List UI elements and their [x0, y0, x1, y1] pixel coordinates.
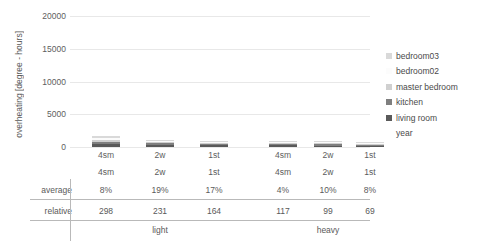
bar-stack[interactable] [200, 141, 228, 147]
bar-segment-living-room[interactable] [146, 145, 174, 147]
table-column-header: 2w [155, 163, 166, 181]
x-axis-labels: 4sm2w1st4sm2w1st [70, 150, 370, 164]
table-row-label: relative [12, 202, 72, 220]
legend-swatch-icon [386, 130, 392, 136]
x-tick-label: 1st [208, 150, 219, 160]
bar-stack[interactable] [146, 140, 174, 147]
table-cell: 17% [205, 181, 222, 199]
table-vertical-divider [70, 179, 71, 241]
bar-segment-living-room[interactable] [200, 145, 228, 147]
table-cell: 99 [323, 202, 332, 220]
y-axis-ticks: 05000100001500020000 [22, 16, 66, 147]
bar-stack[interactable] [92, 136, 120, 147]
legend-item-label: bedroom03 [396, 51, 439, 61]
table-group-label: light [152, 225, 168, 235]
table-group-label: heavy [317, 225, 340, 235]
table-cell: 164 [207, 202, 221, 220]
gridline [70, 147, 370, 148]
legend-item-kitchen[interactable]: kitchen [386, 95, 488, 111]
bar-stack[interactable] [314, 141, 342, 147]
bar-series-container [70, 16, 370, 147]
legend-item-bedroom03[interactable]: bedroom03 [386, 48, 488, 64]
bar-segment-living-room[interactable] [269, 145, 297, 147]
legend-item-bedroom02[interactable]: bedroom02 [386, 64, 488, 80]
table-header-row: 4sm2w1st4sm2w1st [12, 163, 370, 181]
table-cell: 10% [319, 181, 336, 199]
chart-figure: overheating [degree - hours] 05000100001… [0, 0, 490, 244]
legend-swatch-icon [386, 99, 392, 105]
legend-swatch-icon [386, 68, 392, 74]
x-tick-label: 1st [364, 150, 375, 160]
legend-item-master-bedroom[interactable]: master bedroom [386, 79, 488, 95]
bar-segment-living-room[interactable] [356, 146, 384, 147]
x-tick-label: 4sm [98, 150, 114, 160]
table-row-label: average [12, 181, 72, 199]
x-tick-label: 2w [323, 150, 334, 160]
table-divider [30, 199, 370, 200]
bar-segment-living-room[interactable] [92, 144, 120, 147]
legend-swatch-icon [386, 84, 392, 90]
table-column-header: 2w [323, 163, 334, 181]
table-cell: 4% [277, 181, 289, 199]
y-tick-label: 15000 [26, 44, 66, 54]
table-column-header: 4sm [98, 163, 114, 181]
table-row: relative2982311641179969 [12, 202, 370, 220]
data-table: 4sm2w1st4sm2w1staverage8%19%17%4%10%8%re… [12, 163, 370, 239]
table-cell: 117 [276, 202, 290, 220]
bar-stack[interactable] [356, 142, 384, 147]
table-cell: 231 [153, 202, 167, 220]
chart-legend: bedroom03bedroom02master bedroomkitchenl… [386, 48, 488, 141]
table-cell: 8% [364, 181, 376, 199]
bar-stack[interactable] [269, 141, 297, 147]
legend-swatch-icon [386, 115, 392, 121]
legend-item-label: master bedroom [396, 82, 458, 92]
legend-item-year[interactable]: year [386, 126, 488, 142]
y-tick-label: 20000 [26, 11, 66, 21]
legend-item-label: year [396, 128, 413, 138]
table-cell: 19% [151, 181, 168, 199]
legend-swatch-icon [386, 53, 392, 59]
legend-item-label: kitchen [396, 97, 423, 107]
table-cell: 69 [365, 202, 374, 220]
table-cell: 8% [100, 181, 112, 199]
table-divider [30, 220, 370, 221]
legend-item-label: living room [396, 113, 437, 123]
bar-segment-living-room[interactable] [314, 146, 342, 148]
legend-item-living-room[interactable]: living room [386, 110, 488, 126]
legend-item-label: bedroom02 [396, 66, 439, 76]
table-column-header: 1st [364, 163, 375, 181]
table-cell: 298 [99, 202, 113, 220]
table-column-header: 1st [208, 163, 219, 181]
x-tick-label: 4sm [275, 150, 291, 160]
table-column-header: 4sm [275, 163, 291, 181]
table-row: average8%19%17%4%10%8% [12, 181, 370, 199]
y-tick-label: 0 [26, 142, 66, 152]
y-tick-label: 10000 [26, 77, 66, 87]
y-tick-label: 5000 [26, 109, 66, 119]
x-tick-label: 2w [155, 150, 166, 160]
